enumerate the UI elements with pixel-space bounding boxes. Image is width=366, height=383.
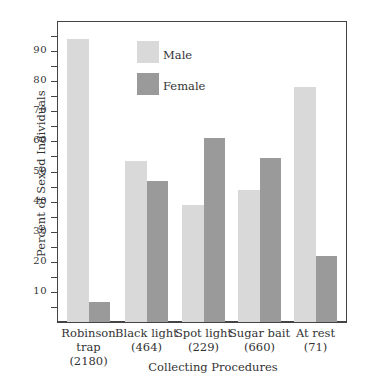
bar-male (294, 87, 316, 322)
y-tick-label: 10 (17, 285, 47, 296)
y-tick (51, 292, 58, 293)
y-tick (51, 262, 58, 263)
y-tick (51, 111, 58, 112)
legend-swatch-female (137, 73, 159, 95)
y-tick (51, 156, 58, 157)
bar-female (89, 302, 111, 322)
bar-female (147, 181, 169, 322)
bar-male (238, 190, 260, 322)
y-tick-label: 80 (17, 74, 47, 85)
y-tick (51, 247, 58, 248)
bar-female (260, 158, 282, 322)
y-tick (51, 96, 58, 97)
bar-female (316, 256, 338, 322)
y-tick (51, 187, 58, 188)
bar-chart: 102030405060708090 Percent of Sexed Indi… (0, 0, 366, 383)
y-tick-label: 90 (17, 44, 47, 55)
y-tick (51, 141, 58, 142)
bar-male (125, 161, 147, 322)
y-tick (51, 81, 58, 82)
y-tick (51, 36, 58, 37)
y-tick (51, 126, 58, 127)
legend-label-male: Male (163, 48, 192, 62)
x-axis-title: Collecting Procedures (0, 360, 366, 374)
y-tick (51, 307, 58, 308)
y-tick (51, 51, 58, 52)
y-tick (51, 277, 58, 278)
legend-label-female: Female (163, 79, 205, 93)
y-tick (51, 217, 58, 218)
y-tick (51, 66, 58, 67)
y-tick (51, 232, 58, 233)
bar-male (182, 205, 204, 322)
y-tick (51, 202, 58, 203)
x-tick-label: At rest(71) (276, 326, 356, 354)
bar-female (204, 138, 226, 322)
y-axis-title: Percent of Sexed Individuals (34, 97, 48, 257)
y-tick (51, 172, 58, 173)
legend-swatch-male (137, 41, 159, 63)
bar-male (67, 39, 89, 322)
